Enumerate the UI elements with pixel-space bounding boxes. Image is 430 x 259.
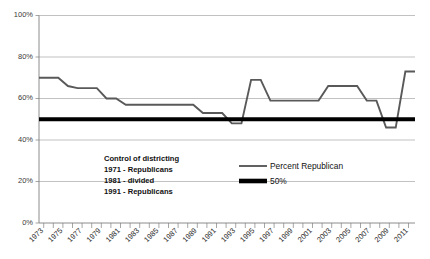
y-axis-label: 80% [18, 52, 33, 61]
x-axis-label: 2011 [392, 226, 410, 244]
x-axis-label: 1995 [238, 226, 256, 244]
x-axis-label: 1993 [219, 226, 237, 244]
x-axis-label: 2009 [373, 226, 391, 244]
legend-label-percent-republican: Percent Republican [270, 161, 343, 171]
line-chart: 100% 80% 60% 40% 20% 0% [0, 0, 430, 259]
x-tickmarks [44, 223, 409, 228]
x-axis-label: 1989 [181, 226, 199, 244]
annotation-line-3: 1981 - divided [104, 176, 155, 185]
annotation-control-of-districting: Control of districting 1971 - Republican… [104, 154, 179, 196]
annotation-line-1: Control of districting [104, 154, 179, 163]
x-axis-label: 1983 [123, 226, 141, 244]
y-axis-labels: 100% 80% 60% 40% 20% 0% [14, 10, 34, 227]
x-axis-label: 1997 [257, 226, 275, 244]
x-axis-label: 2003 [315, 226, 333, 244]
x-axis-label: 1987 [161, 226, 179, 244]
x-axis-label: 2001 [296, 226, 314, 244]
annotation-line-4: 1991 - Republicans [104, 187, 173, 196]
x-axis-label: 1999 [277, 226, 295, 244]
y-axis-label: 0% [22, 218, 33, 227]
x-axis-label: 1981 [104, 226, 122, 244]
x-axis-label: 2007 [353, 226, 371, 244]
y-axis-label: 40% [18, 135, 33, 144]
x-axis-label: 1985 [142, 226, 160, 244]
x-axis-label: 1973 [27, 226, 45, 244]
x-axis-label: 2005 [334, 226, 352, 244]
x-axis-label: 1975 [46, 226, 64, 244]
gridlines [39, 16, 415, 182]
x-axis-label: 1977 [65, 226, 83, 244]
y-axis-label: 60% [18, 93, 33, 102]
legend-label-fifty-percent: 50% [270, 176, 287, 186]
legend: Percent Republican 50% [239, 161, 343, 186]
y-tickmarks [36, 16, 40, 224]
x-axis-labels: 1973 1975 1977 1979 1981 1983 1985 1987 … [27, 226, 410, 244]
y-axis-label: 20% [18, 176, 33, 185]
chart-container: 100% 80% 60% 40% 20% 0% [0, 0, 430, 259]
y-axis-label: 100% [14, 10, 34, 19]
x-axis-label: 1979 [85, 226, 103, 244]
annotation-line-2: 1971 - Republicans [104, 165, 173, 174]
x-axis-label: 1991 [200, 226, 218, 244]
